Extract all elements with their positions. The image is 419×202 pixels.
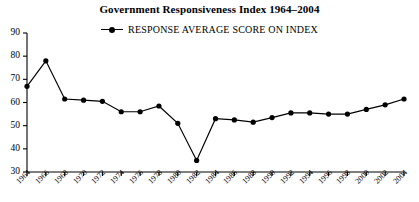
data-series [24, 58, 406, 163]
axes [23, 33, 404, 176]
chart-container: Government Responsiveness Index 1964–200… [0, 0, 419, 202]
y-axis-tick-label: 50 [2, 121, 20, 131]
y-axis-tick-label: 90 [2, 28, 20, 38]
y-axis-tick-label: 80 [2, 51, 20, 61]
y-axis-tick-label: 60 [2, 98, 20, 108]
y-axis-tick-label: 70 [2, 74, 20, 84]
y-axis-tick-label: 40 [2, 144, 20, 154]
